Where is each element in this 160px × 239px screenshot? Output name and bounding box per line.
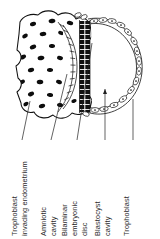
label-blastocyst-cavity: Blastocyst cavity [93, 201, 112, 236]
label-line-1: Blastocyst [93, 201, 102, 236]
label-line-2: cavity [49, 216, 58, 236]
label-trophoblast: Trophoblast [122, 196, 131, 236]
leader-trophoblast-invading-endometrium [22, 101, 30, 140]
label-line-2: invading endometrium [20, 161, 29, 236]
label-line-1: Trophoblast [122, 196, 131, 236]
blastocyst-cavity [91, 22, 140, 112]
label-line-3: disc [80, 222, 89, 236]
label-line-1: Trophoblast [10, 196, 19, 236]
implantation-diagram: Trophoblast invading endometrium Amnioti… [0, 0, 160, 239]
diagram-canvas: Trophoblast invading endometrium Amnioti… [0, 0, 160, 239]
label-line-2: embryonic [70, 201, 79, 236]
label-line-1: Amniotic [39, 207, 48, 236]
label-bilaminar-embryonic-disc: Bilaminar embryonic disc [60, 201, 89, 236]
label-line-2: cavity [103, 216, 112, 236]
label-line-1: Bilaminar [60, 204, 69, 236]
label-amniotic-cavity: Amniotic cavity [39, 207, 58, 236]
label-trophoblast-invading-endometrium: Trophoblast invading endometrium [10, 161, 29, 236]
